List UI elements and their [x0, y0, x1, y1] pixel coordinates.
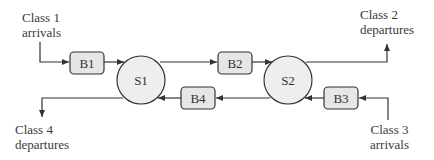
class4-departure-arrow — [42, 98, 123, 117]
class4-departures-label: Class 4 departures — [15, 122, 69, 152]
buffer-b4: B4 — [181, 87, 215, 109]
buffer-b1: B1 — [70, 52, 104, 74]
buffer-b2-label: B2 — [227, 56, 242, 71]
class4-line1: Class 4 — [15, 122, 69, 137]
server-s1: S1 — [117, 56, 165, 104]
class2-line1: Class 2 — [360, 7, 414, 22]
class4-line2: departures — [15, 137, 69, 152]
buffer-b3: B3 — [324, 87, 358, 109]
server-s2-label: S2 — [281, 73, 295, 88]
server-s2: S2 — [264, 56, 312, 104]
buffer-b1-label: B1 — [79, 56, 94, 71]
class1-line1: Class 1 — [22, 10, 61, 25]
class3-arrivals-label: Class 3 arrivals — [370, 122, 409, 152]
class3-line2: arrivals — [370, 137, 409, 152]
class1-arrival-arrow — [40, 42, 69, 62]
class2-departures-label: Class 2 departures — [360, 7, 414, 37]
buffer-b2: B2 — [218, 52, 252, 74]
server-s1-label: S1 — [134, 73, 148, 88]
buffer-b4-label: B4 — [190, 91, 206, 106]
class3-line1: Class 3 — [370, 122, 409, 137]
class3-arrival-arrow — [359, 98, 388, 120]
class2-line2: departures — [360, 22, 414, 37]
class1-line2: arrivals — [22, 25, 61, 40]
class1-arrivals-label: Class 1 arrivals — [22, 10, 61, 40]
class2-departure-arrow — [306, 44, 387, 62]
buffer-b3-label: B3 — [333, 91, 348, 106]
